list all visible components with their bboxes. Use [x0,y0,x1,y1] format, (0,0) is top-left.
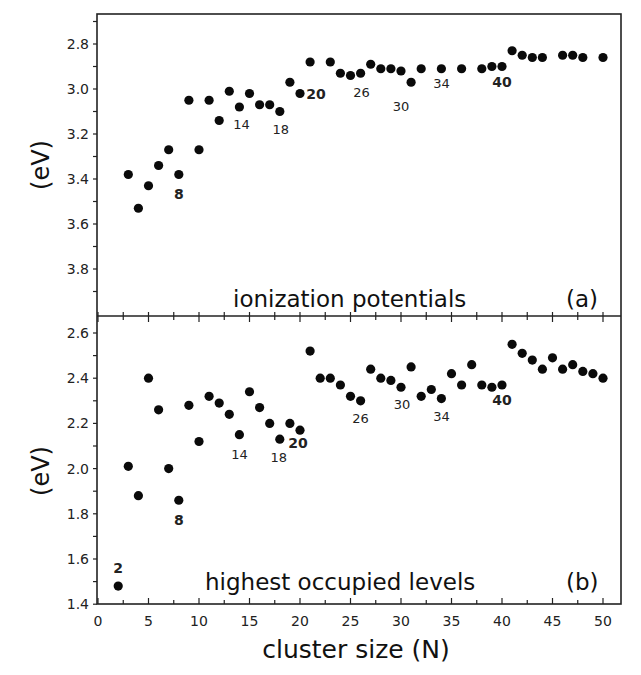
x-tick-label: 30 [392,613,410,629]
data-point [255,100,264,109]
data-point [265,100,274,109]
panel-a-title: ionization potentials [233,286,466,312]
x-tick-label: 25 [342,613,360,629]
data-point [326,57,335,66]
data-point [578,53,587,62]
data-point [507,46,516,55]
data-point [507,340,516,349]
data-point [245,89,254,98]
data-point [235,430,244,439]
x-tick-label: 40 [493,613,511,629]
data-point [144,374,153,383]
data-point [174,496,183,505]
data-point [295,426,304,435]
annotation-label: 34 [433,76,450,91]
annotation-label: 30 [394,397,411,412]
data-point [437,394,446,403]
data-point [528,356,537,365]
data-point [568,360,577,369]
panel-a-tag: (a) [566,286,598,312]
chart-figure: 051015202530354045502.83.03.23.43.63.81.… [0,0,641,675]
highest-occupied-level-points [114,340,608,591]
y-axis-label-a: (eV) [27,140,55,190]
data-point [376,64,385,73]
annotation-label: 2 [113,560,123,576]
x-tick-label: 5 [144,613,153,629]
annotation-label: 34 [433,409,450,424]
data-point [124,462,133,471]
data-point [487,62,496,71]
data-point [497,380,506,389]
data-point [245,387,254,396]
annotation-label: 8 [174,186,184,202]
data-point [356,396,365,405]
data-point [154,161,163,170]
data-point [326,374,335,383]
data-point [295,89,304,98]
y-tick-label-a: 3.4 [67,171,89,187]
annotation-label: 18 [273,122,290,137]
data-point [386,64,395,73]
annotation-label: 30 [393,99,410,114]
data-point [215,116,224,125]
annotation-label: 20 [306,86,326,102]
data-point [457,380,466,389]
data-point [558,51,567,60]
annotation-label: 20 [288,435,308,451]
data-point [477,64,486,73]
x-tick-label: 35 [443,613,461,629]
data-point [235,102,244,111]
data-point [215,398,224,407]
y-tick-label-b: 2.4 [67,370,89,386]
y-tick-label-b: 1.8 [67,506,89,522]
annotation-label: 14 [231,447,248,462]
data-point [538,365,547,374]
y-tick-label-b: 1.4 [67,596,89,612]
x-tick-label: 45 [544,613,562,629]
data-point [205,392,214,401]
data-point [548,353,557,362]
data-point [396,66,405,75]
data-point [265,419,274,428]
data-point [598,53,607,62]
data-point [164,145,173,154]
data-point [154,405,163,414]
y-tick-label-a: 2.8 [67,36,89,52]
x-tick-label: 20 [291,613,309,629]
data-point [285,419,294,428]
data-point [568,51,577,60]
y-tick-label-a: 3.2 [67,126,89,142]
data-point [205,96,214,105]
data-point [306,346,315,355]
y-tick-label-b: 2.6 [67,325,89,341]
x-tick-label: 0 [94,613,103,629]
data-point [194,145,203,154]
data-point [396,383,405,392]
axis-ticks [93,22,603,605]
y-tick-label-b: 2.2 [67,415,89,431]
annotation-label: 26 [353,85,370,100]
panel-b-title: highest occupied levels [205,569,475,595]
data-point [114,582,123,591]
data-point [447,369,456,378]
data-point [225,87,234,96]
data-point [184,401,193,410]
data-point [518,349,527,358]
data-point [356,69,365,78]
data-point [134,204,143,213]
data-point [366,365,375,374]
data-point [366,60,375,69]
panel-b-tag: (b) [566,569,599,595]
data-point [346,71,355,80]
data-point [255,403,264,412]
data-point [558,365,567,374]
data-point [407,78,416,87]
data-point [477,380,486,389]
tick-labels: 051015202530354045502.83.03.23.43.63.81.… [67,36,612,629]
y-tick-label-a: 3.8 [67,261,89,277]
y-tick-label-a: 3.6 [67,216,89,232]
data-point [124,170,133,179]
data-point [588,369,597,378]
data-point [336,69,345,78]
annotation-label: 26 [352,411,369,426]
